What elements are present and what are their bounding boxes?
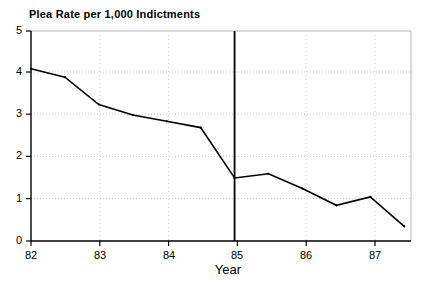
data-point — [233, 177, 235, 179]
ytick-label-2: 2 — [6, 149, 22, 161]
x-axis-ticks — [31, 241, 375, 246]
y-axis-ticks — [26, 31, 31, 241]
ytick-label-3: 3 — [6, 107, 22, 119]
data-line-plea-rate — [31, 69, 404, 227]
data-point — [166, 120, 168, 122]
gridlines-vertical — [100, 31, 375, 241]
data-point-markers — [30, 68, 405, 228]
xtick-label-86: 86 — [291, 249, 321, 261]
x-axis-title: Year — [168, 262, 288, 277]
ytick-label-5: 5 — [6, 24, 22, 36]
xtick-label-85: 85 — [222, 249, 252, 261]
data-point — [98, 103, 100, 105]
ytick-label-1: 1 — [6, 192, 22, 204]
xtick-label-84: 84 — [154, 249, 184, 261]
data-point — [335, 204, 337, 206]
data-point — [403, 225, 405, 227]
data-point — [30, 68, 32, 70]
data-point — [200, 127, 202, 129]
data-point — [369, 196, 371, 198]
xtick-label-83: 83 — [85, 249, 115, 261]
gridlines-horizontal — [31, 72, 411, 199]
xtick-label-82: 82 — [16, 249, 46, 261]
xtick-label-87: 87 — [360, 249, 390, 261]
data-point — [64, 76, 66, 78]
data-point — [132, 114, 134, 116]
chart-container: Plea Rate per 1,000 Indictments — [0, 0, 437, 292]
data-point — [301, 187, 303, 189]
ytick-label-0: 0 — [6, 234, 22, 246]
data-point — [267, 173, 269, 175]
ytick-label-4: 4 — [6, 65, 22, 77]
